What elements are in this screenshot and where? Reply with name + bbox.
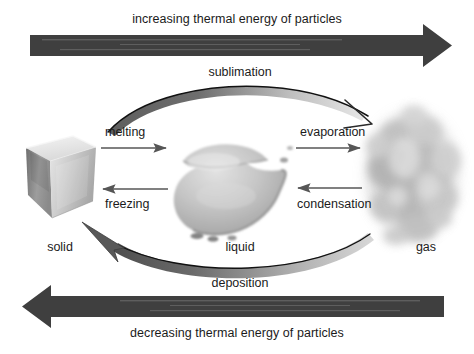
diagram-graphics [0, 0, 474, 354]
top-banner-arrow [30, 24, 452, 67]
state-label-solid: solid [47, 241, 73, 254]
sublimation-label: sublimation [208, 66, 271, 79]
evaporation-label: evaporation [300, 126, 365, 139]
state-label-liquid: liquid [225, 241, 254, 254]
phase-change-diagram: increasing thermal energy of particles d… [0, 0, 474, 354]
freezing-label: freezing [105, 198, 149, 211]
condensation-label: condensation [297, 198, 371, 211]
vapor-cloud-icon [366, 105, 461, 245]
melting-label: melting [105, 126, 145, 139]
bottom-banner-label: decreasing thermal energy of particles [130, 327, 344, 340]
ice-cube-icon [26, 136, 96, 218]
water-puddle-icon [174, 144, 293, 241]
state-label-gas: gas [416, 241, 436, 254]
deposition-label: deposition [212, 277, 269, 290]
top-banner-label: increasing thermal energy of particles [132, 13, 342, 26]
bottom-banner-arrow [22, 285, 444, 328]
